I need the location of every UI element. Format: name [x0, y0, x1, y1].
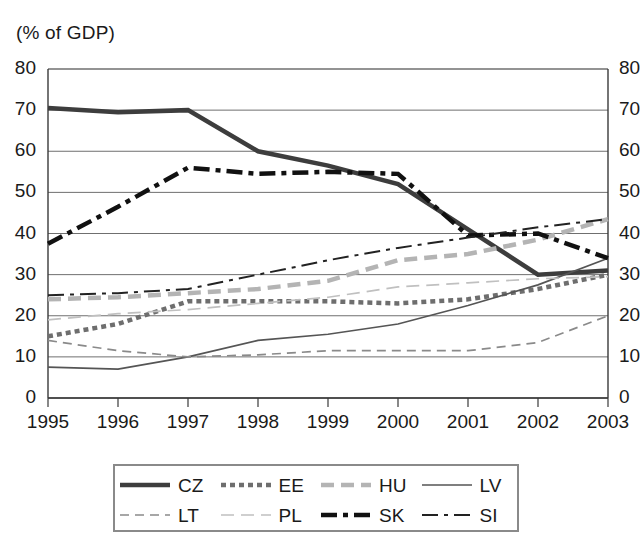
x-axis-tick-label: 2001: [433, 411, 503, 433]
legend-swatch-icon: [421, 478, 473, 492]
legend-swatch-icon: [119, 478, 171, 492]
series-line-si: [48, 219, 608, 295]
y-axis-tick-label-right: 40: [619, 222, 640, 244]
legend-row-1: CZEEHULV: [115, 470, 517, 500]
legend-item-label: SK: [379, 506, 404, 525]
x-axis-tick-label: 1999: [293, 411, 363, 433]
y-axis-tick-label-left: 20: [0, 304, 36, 326]
series-line-ee: [48, 275, 608, 337]
legend-swatch-icon: [320, 478, 372, 492]
legend-item-lv[interactable]: LV: [417, 476, 518, 495]
legend-swatch-icon: [421, 508, 473, 522]
legend-swatch-icon: [220, 478, 272, 492]
y-axis-tick-label-right: 60: [619, 139, 640, 161]
y-axis-tick-label-left: 50: [0, 180, 36, 202]
x-axis-tick-label: 1998: [223, 411, 293, 433]
legend-item-cz[interactable]: CZ: [115, 476, 216, 495]
legend-item-label: EE: [279, 476, 304, 495]
legend-item-label: CZ: [178, 476, 203, 495]
x-axis-tick-label: 2002: [503, 411, 573, 433]
y-axis-tick-label-left: 0: [0, 386, 36, 408]
y-axis-tick-label-left: 40: [0, 222, 36, 244]
y-axis-tick-label-right: 50: [619, 180, 640, 202]
y-axis-tick-label-left: 30: [0, 263, 36, 285]
y-axis-tick-label-right: 20: [619, 304, 640, 326]
legend-item-hu[interactable]: HU: [316, 476, 417, 495]
legend-item-label: PL: [279, 506, 302, 525]
series-line-lt: [48, 316, 608, 357]
y-axis-tick-label-right: 80: [619, 57, 640, 79]
legend-item-label: LT: [178, 506, 199, 525]
legend-swatch-icon: [320, 508, 372, 522]
axis-lines: [48, 69, 608, 407]
y-axis-tick-label-right: 70: [619, 98, 640, 120]
legend-item-label: LV: [480, 476, 502, 495]
legend-item-lt[interactable]: LT: [115, 506, 216, 525]
legend-item-label: SI: [480, 506, 498, 525]
legend-item-pl[interactable]: PL: [216, 506, 317, 525]
legend-item-ee[interactable]: EE: [216, 476, 317, 495]
y-axis-tick-label-left: 70: [0, 98, 36, 120]
legend-item-sk[interactable]: SK: [316, 506, 417, 525]
x-axis-tick-label: 1995: [13, 411, 83, 433]
legend-swatch-icon: [119, 508, 171, 522]
x-axis-tick-label: 1997: [153, 411, 223, 433]
legend-row-2: LTPLSKSI: [115, 500, 517, 530]
series-line-cz: [48, 108, 608, 275]
y-axis-tick-label-right: 0: [619, 386, 630, 408]
chart-legend: CZEEHULV LTPLSKSI: [113, 464, 519, 532]
y-axis-tick-label-right: 10: [619, 345, 640, 367]
x-axis-tick-label: 1996: [83, 411, 153, 433]
legend-swatch-icon: [220, 508, 272, 522]
y-axis-tick-label-left: 60: [0, 139, 36, 161]
legend-item-label: HU: [379, 476, 406, 495]
legend-item-si[interactable]: SI: [417, 506, 518, 525]
y-axis-tick-label-left: 10: [0, 345, 36, 367]
x-axis-tick-label: 2003: [573, 411, 643, 433]
y-axis-tick-label-left: 80: [0, 57, 36, 79]
x-axis-tick-label: 2000: [363, 411, 433, 433]
data-series-layer: [48, 108, 608, 369]
series-line-hu: [48, 219, 608, 299]
y-axis-tick-label-right: 30: [619, 263, 640, 285]
